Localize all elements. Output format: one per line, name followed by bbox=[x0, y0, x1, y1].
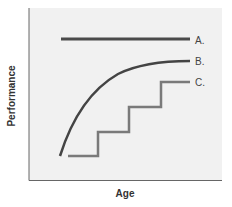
chart-canvas bbox=[0, 0, 232, 207]
series-c-label: C. bbox=[195, 77, 205, 88]
series-a-label: A. bbox=[195, 35, 204, 46]
x-axis-label: Age bbox=[116, 188, 135, 199]
series-b-label: B. bbox=[195, 56, 204, 67]
plot-area bbox=[29, 8, 222, 180]
y-axis-label: Performance bbox=[6, 65, 17, 126]
